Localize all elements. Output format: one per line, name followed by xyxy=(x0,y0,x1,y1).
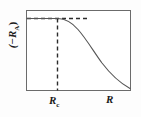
x-axis-label: R xyxy=(106,94,113,105)
y-axis-label-close: ) xyxy=(6,22,18,26)
plot-canvas xyxy=(0,0,141,117)
figure-container: (−RA) Rc R xyxy=(0,0,141,117)
plot-frame xyxy=(27,11,131,91)
y-axis-label-subscript: A xyxy=(13,26,21,31)
x-tick-label-rc-subscript: c xyxy=(56,101,59,109)
y-axis-label-main: (−R xyxy=(6,31,18,49)
y-axis-label: (−RA) xyxy=(7,7,21,63)
x-tick-label-critical-radius: Rc xyxy=(49,95,59,109)
